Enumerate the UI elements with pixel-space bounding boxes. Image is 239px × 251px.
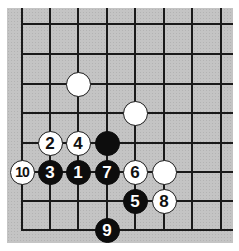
black-stone	[95, 131, 120, 156]
white-stone	[123, 101, 148, 126]
board-edge-left	[21, 8, 23, 231]
black-stone-3: 3	[38, 160, 63, 185]
grid-line-horizontal	[21, 23, 233, 25]
grid-line-vertical	[77, 8, 79, 231]
black-stone-9: 9	[95, 218, 120, 243]
grid-line-vertical	[191, 8, 193, 231]
go-board	[7, 8, 233, 243]
grid-line-vertical	[49, 8, 51, 231]
white-stone	[66, 72, 91, 97]
white-stone-10: 10	[10, 160, 35, 185]
grid-line-vertical	[220, 8, 222, 231]
grid-line-horizontal	[21, 83, 233, 85]
board-edge-bottom	[21, 229, 233, 231]
grid-line-vertical	[106, 8, 108, 231]
white-stone-6: 6	[123, 160, 148, 185]
black-stone-1: 1	[66, 160, 91, 185]
black-stone-7: 7	[95, 160, 120, 185]
white-stone-4: 4	[66, 131, 91, 156]
grid-line-horizontal	[21, 53, 233, 55]
white-stone-8: 8	[152, 189, 177, 214]
black-stone-5: 5	[123, 189, 148, 214]
white-stone	[152, 160, 177, 185]
white-stone-2: 2	[38, 131, 63, 156]
